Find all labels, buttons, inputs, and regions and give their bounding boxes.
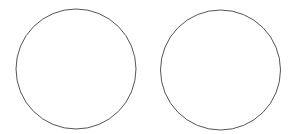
circle-left — [16, 9, 136, 129]
diagram-canvas — [0, 0, 293, 134]
circle-right — [161, 10, 281, 130]
